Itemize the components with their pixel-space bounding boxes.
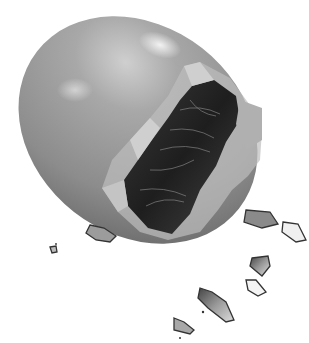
cracked-egg-illustration: Grayscale illustration of a cracked egg … [0, 0, 309, 343]
